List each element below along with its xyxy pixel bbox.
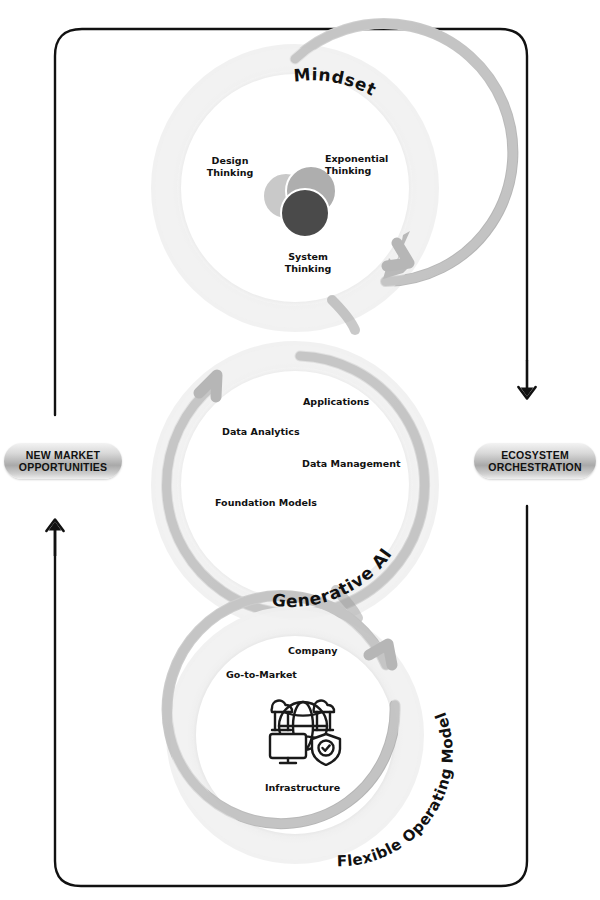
node-label-go-to-market: Go-to-Market	[226, 669, 322, 681]
badge-new-market-opportunities[interactable]: NEW MARKET OPPORTUNITIES	[4, 443, 122, 479]
badge-right-line2: ORCHESTRATION	[488, 461, 581, 473]
badge-ecosystem-orchestration[interactable]: ECOSYSTEM ORCHESTRATION	[474, 443, 596, 479]
ring-generative-ai	[164, 354, 426, 618]
node-label-company: Company	[288, 645, 368, 657]
node-label-exponential-thinking: Exponential Thinking	[325, 153, 411, 177]
diagram-canvas: Mindset Generative AI Flexible Operating…	[0, 0, 600, 900]
node-label-infrastructure: Infrastructure	[265, 782, 365, 794]
globe-cloud-monitor-shield-icon	[248, 686, 358, 766]
right-arrow-down	[518, 360, 535, 399]
badge-left-line1: NEW MARKET	[26, 449, 100, 461]
badge-left-line2: OPPORTUNITIES	[19, 461, 107, 473]
node-label-system-thinking: System Thinking	[272, 251, 344, 275]
left-arrow-up	[46, 520, 63, 557]
node-label-foundation-models: Foundation Models	[215, 497, 335, 509]
node-label-data-analytics: Data Analytics	[222, 426, 332, 438]
node-label-data-management: Data Management	[302, 458, 422, 470]
badge-right-line1: ECOSYSTEM	[501, 449, 569, 461]
node-label-design-thinking: Design Thinking	[195, 155, 265, 179]
node-label-applications: Applications	[303, 396, 413, 408]
